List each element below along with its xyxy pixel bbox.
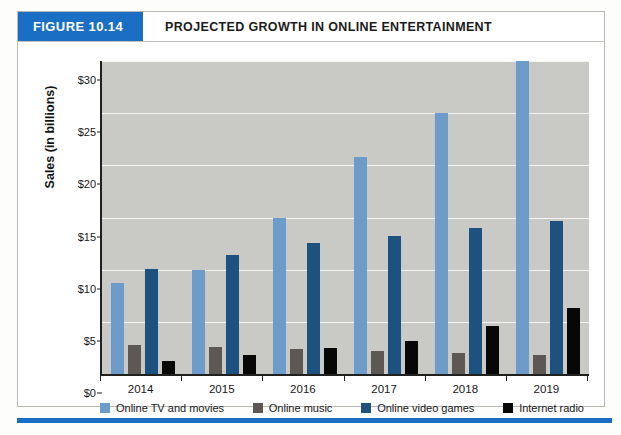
legend-label: Online music <box>269 402 333 414</box>
x-tick-mark <box>181 376 182 381</box>
figure-card: FIGURE 10.14 PROJECTED GROWTH IN ONLINE … <box>17 11 605 407</box>
legend-swatch-icon <box>253 403 263 413</box>
figure-title-container: PROJECTED GROWTH IN ONLINE ENTERTAINMENT <box>143 12 604 41</box>
legend-item: Online TV and movies <box>100 402 224 414</box>
y-tick-label: $10 <box>62 283 96 295</box>
bar <box>192 270 205 374</box>
scanned-page: FIGURE 10.14 PROJECTED GROWTH IN ONLINE … <box>0 0 621 435</box>
x-tick-mark <box>344 376 345 381</box>
bar <box>307 243 320 374</box>
legend-swatch-icon <box>100 403 110 413</box>
y-tick-label: $20 <box>62 178 96 190</box>
legend-label: Online video games <box>377 402 474 414</box>
chart-legend: Online TV and moviesOnline musicOnline v… <box>100 402 590 414</box>
bar <box>371 351 384 374</box>
bar <box>128 345 141 374</box>
bar-group <box>508 61 589 374</box>
bar-group <box>102 61 183 374</box>
plot-area <box>100 61 589 376</box>
bar-group <box>264 61 345 374</box>
x-tick-mark <box>506 376 507 381</box>
bar <box>145 269 158 374</box>
x-tick-mark <box>100 376 101 381</box>
bar <box>486 326 499 374</box>
bar-group <box>427 61 508 374</box>
bar <box>290 349 303 374</box>
y-tick-label: $15 <box>62 231 96 243</box>
y-axis-ticks: $0$5$10$15$20$25$30 <box>54 61 96 374</box>
x-tick-mark <box>425 376 426 381</box>
x-tick-label: 2019 <box>516 383 576 395</box>
bar <box>435 113 448 374</box>
bar <box>516 61 529 374</box>
bar <box>209 347 222 374</box>
legend-item: Online video games <box>361 402 474 414</box>
y-tick-label: $30 <box>62 74 96 86</box>
y-tick-label: $5 <box>62 335 96 347</box>
bar <box>452 353 465 374</box>
figure-title: PROJECTED GROWTH IN ONLINE ENTERTAINMENT <box>165 20 492 34</box>
bar <box>111 283 124 374</box>
bar <box>405 341 418 374</box>
x-tick-label: 2017 <box>354 383 414 395</box>
x-tick-label: 2015 <box>192 383 252 395</box>
x-axis-ticks: 201420152016201720182019 <box>100 376 587 402</box>
legend-label: Online TV and movies <box>116 402 224 414</box>
figure-number-badge: FIGURE 10.14 <box>18 12 143 41</box>
x-tick-label: 2014 <box>111 383 171 395</box>
chart-region: Sales (in billions) $0$5$10$15$20$25$30 … <box>18 42 604 406</box>
x-tick-mark <box>262 376 263 381</box>
legend-label: Internet radio <box>519 402 584 414</box>
legend-item: Online music <box>253 402 333 414</box>
bar <box>567 308 580 374</box>
bar <box>533 355 546 374</box>
bar <box>162 361 175 374</box>
plot-inner <box>102 61 589 374</box>
bar-group <box>346 61 427 374</box>
x-tick-label: 2018 <box>435 383 495 395</box>
bar-group <box>183 61 264 374</box>
y-tick-label: $0 <box>62 387 96 399</box>
y-tick-label: $25 <box>62 126 96 138</box>
bar <box>354 157 367 374</box>
x-tick-mark <box>587 376 588 381</box>
bar <box>388 236 401 374</box>
bar <box>324 348 337 374</box>
bar <box>469 228 482 374</box>
bar <box>243 355 256 374</box>
figure-header: FIGURE 10.14 PROJECTED GROWTH IN ONLINE … <box>18 12 604 42</box>
footer-rule <box>17 418 612 423</box>
bar <box>226 255 239 374</box>
bar <box>273 218 286 375</box>
legend-swatch-icon <box>503 403 513 413</box>
legend-swatch-icon <box>361 403 371 413</box>
x-tick-label: 2016 <box>273 383 333 395</box>
bar <box>550 221 563 374</box>
legend-item: Internet radio <box>503 402 584 414</box>
